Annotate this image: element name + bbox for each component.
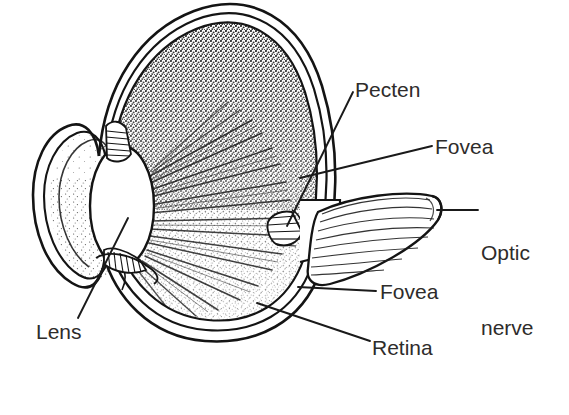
- label-optic-nerve-line2: nerve: [481, 315, 534, 340]
- eye-diagram-figure: Pecten Fovea Optic nerve Fovea Retina Le…: [0, 0, 569, 415]
- label-lens: Lens: [36, 320, 82, 343]
- label-pecten: Pecten: [355, 78, 420, 101]
- leader-fovea-lower: [298, 287, 376, 291]
- label-optic-nerve: Optic nerve: [481, 190, 534, 390]
- leader-fovea-upper: [300, 146, 432, 178]
- label-retina: Retina: [372, 336, 433, 359]
- optic-nerve-stalk: [308, 194, 442, 285]
- leader-retina: [257, 303, 370, 341]
- lens-body: [90, 146, 154, 266]
- label-optic-nerve-line1: Optic: [481, 240, 534, 265]
- label-fovea-lower: Fovea: [380, 280, 438, 303]
- label-fovea-upper: Fovea: [435, 135, 493, 158]
